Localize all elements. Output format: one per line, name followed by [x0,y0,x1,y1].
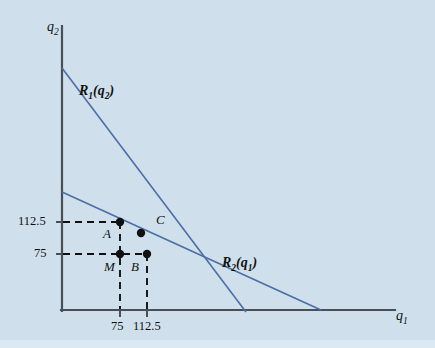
data-point-a [116,218,124,226]
data-point-m [116,250,124,258]
curve-r2 [62,192,321,310]
point-label-m: M [104,260,115,273]
data-point-b [143,250,151,258]
x-tick-label-112-5: 112.5 [133,320,161,333]
data-point-c [137,229,145,237]
x-tick-label-75: 75 [111,320,124,333]
curve-r1 [62,68,246,312]
x-axis-label: q1 [396,309,408,326]
point-label-c: C [156,213,165,226]
curve-label-r2: R2(q1) [222,256,257,273]
point-label-b: B [131,260,139,273]
figure-container: q2 q1 R1(q2) R2(q1) A M B C 112.5 75 75 … [0,0,435,348]
y-tick-label-112-5: 112.5 [18,215,46,228]
y-axis-label: q2 [47,20,59,37]
chart-canvas [0,0,435,348]
y-tick-label-75: 75 [34,247,47,260]
curve-label-r1: R1(q2) [79,84,114,101]
point-label-a: A [103,227,111,240]
